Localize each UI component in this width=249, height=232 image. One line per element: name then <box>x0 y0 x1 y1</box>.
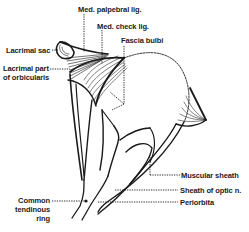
label-muscular-sheath: Muscular sheath <box>181 171 239 180</box>
label-lacrimal-part: Lacrimal part of orbicularis <box>3 64 49 82</box>
label-common-line3: ring <box>10 214 50 223</box>
globe-outline <box>124 53 189 122</box>
label-common-line1: Common <box>10 196 50 205</box>
label-sheath-optic-n: Sheath of optic n. <box>180 186 241 195</box>
label-med-check-lig: Med. check lig. <box>97 22 149 31</box>
label-lacrimal-sac: Lacrimal sac <box>6 46 50 55</box>
label-lacrimal-part-line2: of orbicularis <box>3 73 49 82</box>
label-med-palpebral-lig: Med. palpebral lig. <box>78 5 142 14</box>
label-periorbita: Periorbita <box>180 198 214 207</box>
label-common-tendinous-ring: Common tendinous ring <box>10 196 50 223</box>
label-common-line2: tendinous <box>10 205 50 214</box>
label-lacrimal-part-line1: Lacrimal part <box>3 64 49 73</box>
label-fascia-bulbi: Fascia bulbi <box>121 36 163 45</box>
